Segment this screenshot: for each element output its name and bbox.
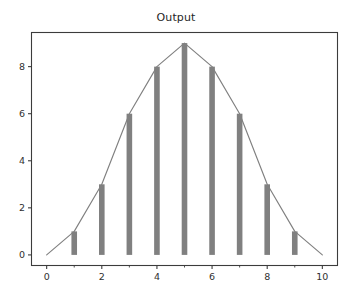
bar — [237, 114, 243, 255]
bar — [264, 184, 270, 255]
y-tick-label: 0 — [19, 249, 25, 260]
chart-figure: Output 024681002468 — [0, 0, 352, 296]
x-tick-label: 0 — [44, 271, 50, 282]
x-tick-label: 4 — [154, 271, 160, 282]
bar — [292, 231, 298, 255]
y-tick-label: 8 — [19, 61, 25, 72]
bar — [182, 43, 188, 255]
x-tick-label: 8 — [264, 271, 270, 282]
y-tick-label: 6 — [19, 108, 25, 119]
bar — [71, 231, 77, 255]
x-tick-label: 2 — [99, 271, 105, 282]
y-tick-label: 4 — [19, 155, 25, 166]
y-tick-label: 2 — [19, 202, 25, 213]
bar — [99, 184, 105, 255]
x-tick-label: 10 — [316, 271, 328, 282]
bar — [209, 67, 215, 255]
x-tick-label: 6 — [209, 271, 215, 282]
plot-area: 024681002468 — [0, 0, 352, 296]
bar — [154, 67, 160, 255]
bar — [127, 114, 133, 255]
